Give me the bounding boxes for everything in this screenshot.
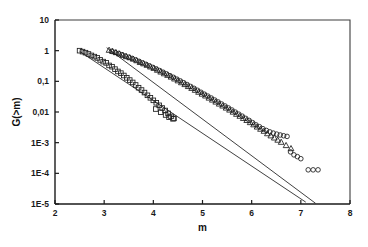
- y-tick-label: 0,1: [37, 76, 49, 86]
- fit-line-upper: [107, 48, 316, 204]
- fit-line-lower: [80, 51, 306, 202]
- figure-container: 1010,10,011E-31E-41E-52345678mG(>m): [0, 0, 368, 247]
- log-scatter-plot: 1010,10,011E-31E-41E-52345678mG(>m): [0, 0, 368, 247]
- x-tick-label: 6: [249, 208, 254, 218]
- y-tick-label: 1: [44, 46, 49, 56]
- x-tick-label: 2: [53, 208, 58, 218]
- x-tick-label: 5: [200, 208, 205, 218]
- data-point-square: [101, 59, 106, 64]
- y-tick-label: 0,01: [32, 107, 49, 117]
- x-tick-label: 4: [151, 208, 156, 218]
- x-axis-title: m: [198, 222, 207, 233]
- data-point-circle: [316, 168, 321, 173]
- y-tick-label: 1E-4: [31, 168, 49, 178]
- x-tick-label: 8: [348, 208, 353, 218]
- plot-frame: [55, 20, 350, 204]
- y-tick-label: 10: [40, 15, 50, 25]
- x-tick-label: 7: [298, 208, 303, 218]
- x-tick-label: 3: [102, 208, 107, 218]
- data-point-square: [92, 54, 97, 59]
- data-point-triangle: [283, 142, 289, 147]
- data-point-square: [86, 52, 91, 57]
- data-point-circle: [311, 168, 316, 173]
- y-tick-label: 1E-3: [31, 138, 49, 148]
- data-point-circle: [299, 156, 304, 161]
- data-point-circle: [306, 168, 311, 173]
- y-axis-title: G(>m): [11, 97, 22, 126]
- data-point-square: [89, 53, 94, 58]
- y-tick-label: 1E-5: [31, 199, 49, 209]
